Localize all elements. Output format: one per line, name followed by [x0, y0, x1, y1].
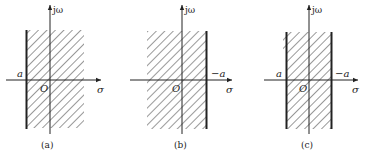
panel-a: jω σ O a (a) — [6, 5, 105, 150]
jw-axis-label: jω — [184, 5, 195, 15]
origin-label: O — [172, 83, 180, 94]
roc-diagram: jω σ O a (a) jω σ O −a (b) jω σ O a −a (… — [0, 0, 365, 155]
origin-label: O — [299, 83, 307, 94]
sigma-axis-label: σ — [352, 84, 360, 95]
panel-caption: (c) — [301, 140, 313, 150]
right-boundary-label: −a — [211, 68, 225, 79]
sigma-axis-label: σ — [97, 84, 105, 95]
sigma-axis-label: σ — [226, 84, 234, 95]
panel-c: jω σ O a −a (c) — [264, 5, 360, 150]
jw-axis-label: jω — [311, 5, 322, 15]
left-boundary-label: a — [17, 68, 23, 79]
origin-label: O — [40, 83, 48, 94]
jw-axis-label: jω — [52, 5, 63, 15]
left-boundary-label: a — [276, 68, 282, 79]
panel-b: jω σ O −a (b) — [130, 5, 234, 150]
panel-caption: (a) — [41, 140, 53, 150]
roc-hatched-region — [26, 30, 84, 128]
panel-caption: (b) — [174, 140, 187, 150]
right-boundary-label: −a — [335, 68, 349, 79]
